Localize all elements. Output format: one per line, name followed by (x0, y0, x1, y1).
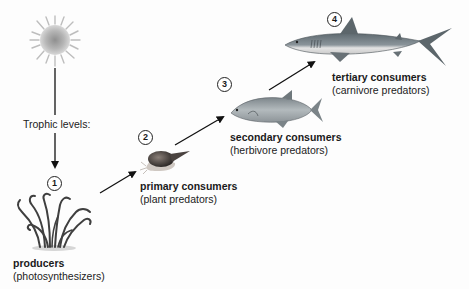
arrow-3-to-4 (269, 62, 314, 90)
level-4-badge: 4 (327, 12, 342, 27)
arrow-2-to-3 (175, 117, 223, 145)
level-4-description: (carnivore predators) (332, 84, 429, 96)
level-4-name: tertiary consumers (332, 71, 427, 83)
level-1-badge: 1 (47, 176, 62, 191)
level-2-description: (plant predators) (140, 193, 217, 205)
level-2-badge: 2 (138, 130, 153, 145)
trophic-levels-diagram: Trophic levels: 1 2 3 4 producers (photo… (0, 0, 469, 289)
level-3-name: secondary consumers (230, 131, 341, 143)
sun-icon (30, 16, 80, 66)
level-3-description: (herbivore predators) (230, 144, 328, 156)
seaweed-icon (18, 194, 91, 251)
level-1-description: (photosynthesizers) (13, 270, 105, 282)
level-2-name: primary consumers (140, 180, 237, 192)
level-1-name: producers (13, 257, 64, 269)
fish-icon (231, 90, 323, 128)
trophic-levels-label: Trophic levels: (23, 118, 90, 130)
snail-icon (140, 151, 190, 174)
arrow-1-to-2 (100, 172, 135, 193)
level-3-badge: 3 (217, 77, 232, 92)
shark-icon (285, 17, 452, 66)
